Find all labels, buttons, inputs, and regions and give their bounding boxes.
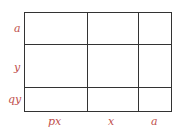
row-divider-2 bbox=[25, 87, 171, 88]
column-divider-1 bbox=[87, 13, 88, 111]
row-label-qy: qy bbox=[8, 94, 21, 105]
column-divider-2 bbox=[138, 13, 139, 111]
col-label-a: a bbox=[151, 116, 158, 127]
row-label-y: y bbox=[14, 62, 20, 73]
col-label-x: x bbox=[108, 116, 114, 127]
col-label-px: px bbox=[48, 116, 61, 127]
area-model-grid bbox=[24, 12, 172, 112]
row-divider-1 bbox=[25, 44, 171, 45]
row-label-a: a bbox=[14, 23, 21, 34]
